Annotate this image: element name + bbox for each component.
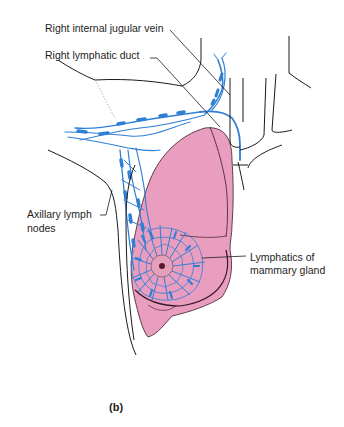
areola <box>151 255 173 277</box>
label-right-internal-jugular-vein: Right internal jugular vein <box>45 22 163 34</box>
lymphatic-drainage-diagram: Right internal jugular vein Right lympha… <box>0 0 344 427</box>
label-lymphatics-mammary-gland-line1: Lymphatics of <box>250 251 314 263</box>
label-axillary-lymph-nodes-line1: Axillary lymph <box>27 208 92 220</box>
label-lymphatics-mammary-gland-line2: mammary gland <box>250 264 325 276</box>
label-right-lymphatic-duct: Right lymphatic duct <box>45 49 140 61</box>
figure-caption: (b) <box>109 401 123 413</box>
label-axillary-lymph-nodes-line2: nodes <box>27 222 56 234</box>
